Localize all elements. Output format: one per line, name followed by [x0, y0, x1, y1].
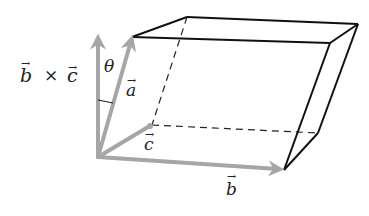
edge-top-front: [132, 37, 330, 43]
cross-label-times: ×: [44, 65, 58, 85]
vector-b-label: b →: [226, 170, 237, 199]
hidden-edge-bottom: [152, 125, 318, 133]
theta-angle-mark: [98, 100, 113, 103]
c-label-arrow: →: [145, 128, 154, 141]
a-label-arrow: →: [127, 74, 136, 87]
edge-front-right: [284, 43, 330, 170]
vectors: [98, 40, 278, 169]
edge-top-back: [187, 17, 358, 24]
cross-label-c-arrow: →: [68, 61, 77, 74]
vector-c-label: c →: [144, 128, 154, 154]
theta-label: θ: [104, 56, 114, 76]
edge-back-right: [318, 24, 358, 133]
b-label-arrow: →: [227, 170, 236, 183]
parallelepiped-diagram: b → × c → θ a → c → b →: [0, 0, 369, 216]
edge-top-left: [132, 17, 187, 37]
cross-product-label: b → × c →: [20, 57, 78, 86]
vector-b: [98, 157, 278, 169]
edge-bottom-right: [284, 133, 318, 170]
vector-a-label: a →: [126, 74, 136, 100]
hidden-edge-vertical: [152, 17, 187, 125]
cross-label-b-arrow: →: [21, 57, 30, 70]
hidden-edges: [152, 17, 318, 133]
visible-edges: [132, 17, 358, 170]
